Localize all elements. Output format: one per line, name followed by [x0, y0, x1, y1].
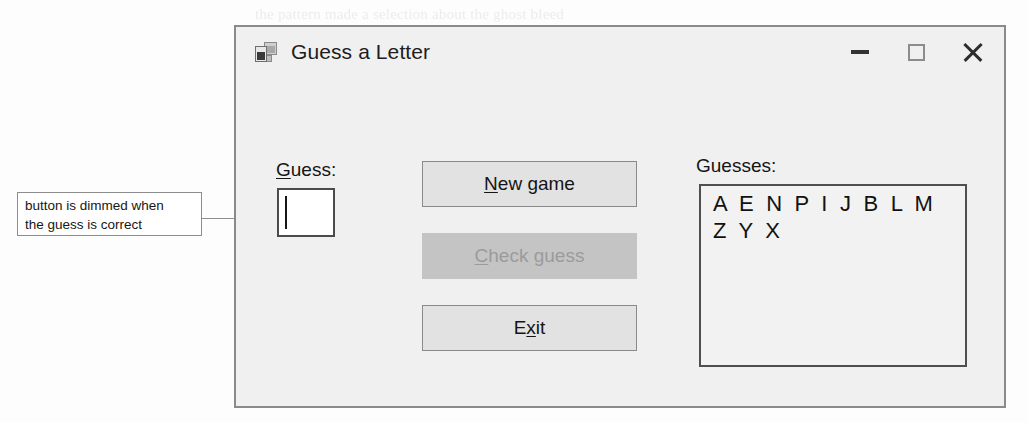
exit-button[interactable]: Exit — [422, 305, 637, 351]
exit-accel: x — [526, 317, 536, 339]
close-icon — [961, 41, 983, 63]
guess-label-text: uess: — [291, 159, 336, 180]
minimize-button[interactable] — [832, 29, 888, 75]
new-game-label: ew game — [498, 173, 575, 195]
guesses-textbox[interactable]: A E N P I J B L M Z Y X — [699, 184, 967, 367]
form-client-area: Guess: New game Check guess Exit Guesses… — [236, 77, 1004, 406]
new-game-button[interactable]: New game — [422, 161, 637, 207]
maximize-button[interactable] — [888, 29, 944, 75]
check-guess-label: heck guess — [488, 245, 584, 267]
close-button[interactable] — [944, 29, 1000, 75]
maximize-icon — [908, 44, 925, 61]
new-game-accel: N — [484, 173, 498, 195]
minimize-icon — [851, 50, 869, 54]
annotation-callout: button is dimmed when the guess is corre… — [17, 192, 202, 236]
windows-form-icon — [255, 42, 277, 63]
ghost-text-line: the pattern made a selection about the g… — [255, 6, 564, 23]
guess-label-accel: G — [276, 159, 291, 180]
text-cursor — [285, 196, 287, 229]
annotation-line-2: the guess is correct — [25, 215, 195, 234]
exit-label-prefix: E — [514, 317, 527, 339]
guesses-letters: A E N P I J B L M Z Y X — [707, 190, 959, 244]
annotation-line-1: button is dimmed when — [25, 196, 195, 215]
guesses-label: Guesses: — [696, 155, 776, 177]
title-bar: Guess a Letter — [236, 27, 1004, 77]
guess-label: Guess: — [276, 159, 336, 181]
exit-label-suffix: it — [536, 317, 546, 339]
window-controls — [832, 27, 1000, 77]
check-guess-button[interactable]: Check guess — [422, 233, 637, 279]
window-title: Guess a Letter — [291, 40, 430, 64]
guess-a-letter-window: Guess a Letter Guess: New game Check gue… — [234, 25, 1006, 408]
check-guess-accel: C — [475, 245, 489, 267]
